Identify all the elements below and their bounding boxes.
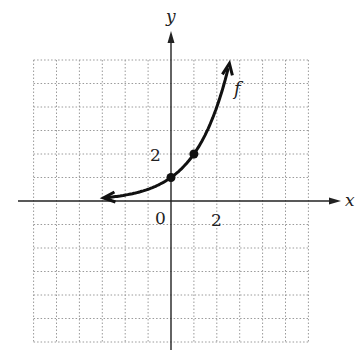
- y-axis-arrow-icon: [168, 31, 175, 43]
- function-curve: [105, 68, 229, 198]
- function-label: f: [232, 78, 244, 99]
- y-tick-label: 2: [150, 145, 161, 165]
- data-point: [189, 150, 198, 159]
- y-axis-label: y: [165, 6, 176, 26]
- x-axis-arrow-icon: [329, 198, 341, 205]
- x-tick-label: 2: [211, 210, 222, 230]
- graph: x y 0 2 2 f: [0, 0, 363, 356]
- origin-label: 0: [155, 208, 166, 228]
- x-axis-label: x: [345, 190, 355, 210]
- data-point: [167, 173, 176, 182]
